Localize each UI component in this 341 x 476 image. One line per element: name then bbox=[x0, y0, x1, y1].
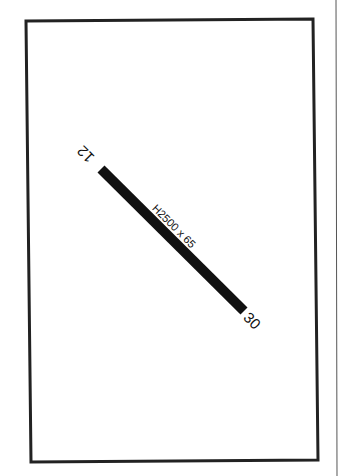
side-rule-line bbox=[336, 0, 337, 476]
runway-12-30 bbox=[101, 169, 244, 311]
airport-diagram: 12 30 H2500 x 65 bbox=[0, 0, 341, 476]
diagram-canvas bbox=[0, 0, 341, 476]
